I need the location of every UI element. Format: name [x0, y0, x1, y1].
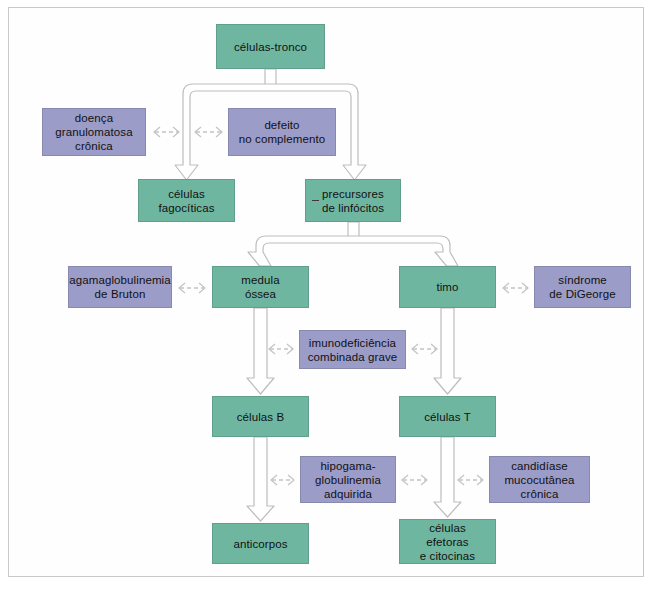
node-celulas-t[interactable]: células T	[399, 396, 496, 437]
node-label: timo	[436, 280, 458, 294]
diagram-page: .hollow { fill: #ffffff; stroke: #bdbdbd…	[0, 0, 657, 589]
node-celulas-efetoras-e-citocinas[interactable]: células efetoras e citocinas	[399, 519, 496, 564]
node-label: medula óssea	[241, 273, 279, 301]
node-celulas-fagociticas[interactable]: células fagocíticas	[138, 179, 235, 222]
node-medula-ossea[interactable]: medula óssea	[212, 266, 309, 308]
node-label: candidíase mucocutânea crônica	[504, 459, 574, 501]
node-agamaglobulinemia-de-bruton[interactable]: agamaglobulinemia de Bruton	[68, 266, 172, 308]
node-label: células fagocíticas	[158, 187, 214, 215]
node-label: precursores de linfócitos	[322, 187, 384, 215]
node-label: células T	[424, 410, 471, 424]
node-sindrome-de-digeorge[interactable]: síndrome de DiGeorge	[534, 266, 631, 308]
node-label: síndrome de DiGeorge	[549, 273, 615, 301]
node-candidiase-mucocutanea-cronica[interactable]: candidíase mucocutânea crônica	[489, 456, 590, 503]
node-label: agamaglobulinemia de Bruton	[69, 273, 170, 301]
node-label: células B	[237, 410, 285, 424]
node-precursores-de-linfocitos[interactable]: precursores de linfócitos	[305, 179, 401, 222]
node-label: células-tronco	[234, 40, 307, 54]
node-anticorpos[interactable]: anticorpos	[212, 523, 309, 564]
node-label: imunodeficiência combinada grave	[308, 336, 398, 364]
node-hipogamaglobulinemia-adquirida[interactable]: hipogama- globulinemia adquirida	[300, 456, 396, 503]
node-defeito-no-complemento[interactable]: defeito no complemento	[228, 108, 336, 156]
leading-dash-marker	[312, 200, 319, 202]
node-label: anticorpos	[233, 537, 287, 551]
node-celulas-b[interactable]: células B	[212, 396, 309, 437]
node-label: defeito no complemento	[239, 118, 325, 146]
node-label: células efetoras e citocinas	[420, 521, 475, 563]
node-imunodeficiencia-combinada-grave[interactable]: imunodeficiência combinada grave	[299, 330, 406, 369]
node-label: doença granulomatosa crônica	[55, 111, 132, 153]
node-label: hipogama- globulinemia adquirida	[315, 459, 381, 501]
node-timo[interactable]: timo	[399, 266, 496, 308]
node-celulas-tronco[interactable]: células-tronco	[216, 24, 325, 69]
node-doenca-granulomatosa-cronica[interactable]: doença granulomatosa crônica	[42, 108, 146, 156]
node-layer: células-troncodoença granulomatosa crôni…	[0, 0, 657, 589]
